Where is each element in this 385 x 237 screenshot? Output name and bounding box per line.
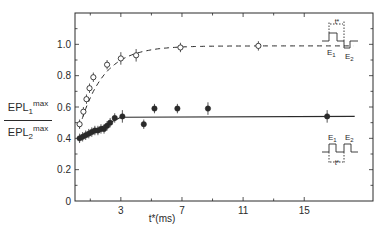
x-tick-label: 15 [299,205,311,216]
open-circle-point [81,109,86,114]
fraction-bar [4,120,52,121]
filled-circle-point [141,122,146,127]
chart-canvas: 37111500.20.40.60.81.0 t*(ms) t* E1 E2 t… [0,0,385,237]
filled-circle-point [107,120,112,125]
open-circle-point [91,75,96,80]
lower-tstar-label: t* [335,159,340,166]
filled-circle-point [205,106,210,111]
filled-series-fit [80,116,355,138]
pulse-diagram-upper [322,21,358,48]
filled-circle-point [120,114,125,119]
y-tick-label: 0 [65,196,71,207]
filled-circle-point [324,114,329,119]
open-circle-point [118,56,123,61]
filled-circle-point [152,106,157,111]
upper-e2-label: E2 [345,52,354,62]
lower-e1-label: E1 [328,133,337,143]
upper-e1-label: E1 [327,48,336,58]
y-axis-numerator: EPL1max [4,98,52,118]
x-tick-label: 3 [118,205,124,216]
data-points [77,41,330,143]
upper-tstar-label: t* [335,18,340,25]
open-circle-point [77,122,82,127]
y-tick-label: 0.8 [57,70,71,81]
x-tick-label: 7 [179,205,185,216]
open-circle-point [84,97,89,102]
filled-circle-point [175,106,180,111]
x-tick-label: 11 [238,205,249,216]
y-tick-label: 0.2 [57,164,71,175]
y-axis-denominator: EPL2max [4,123,52,143]
lower-e2-label: E2 [345,133,354,143]
open-circle-point [87,86,92,91]
y-tick-label: 0.4 [57,133,71,144]
open-circle-point [178,45,183,50]
y-tick-label: 0.6 [57,102,71,113]
pulse-diagram-lower [322,144,358,164]
open-circle-point [134,53,139,58]
y-axis-label: EPL1max EPL2max [4,98,52,143]
y-tick-label: 1.0 [57,39,71,50]
x-axis-label: t*(ms) [149,213,176,224]
filled-circle-point [112,115,117,120]
open-circle-point [256,43,261,48]
open-circle-point [104,62,109,67]
